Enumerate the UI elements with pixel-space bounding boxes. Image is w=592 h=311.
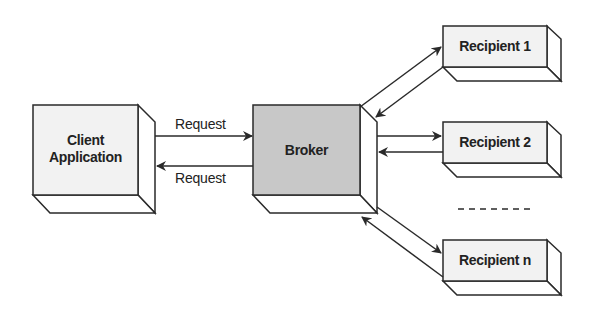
request-label-bottom: Request	[175, 170, 226, 186]
client-label-line2: Application	[33, 149, 138, 166]
client-label: Client Application	[33, 132, 138, 166]
recipient-n-label: Recipient n	[443, 252, 547, 269]
broker-label: Broker	[253, 142, 360, 159]
recipient-2-label: Recipient 2	[443, 134, 547, 151]
arrow-recipient-1-to-broker	[376, 67, 443, 117]
request-label-top: Request	[175, 116, 226, 132]
broker-box	[253, 105, 377, 213]
client-label-line1: Client	[33, 132, 138, 149]
recipient-1-label: Recipient 1	[443, 38, 547, 55]
arrow-broker-to-recipient-n	[377, 207, 441, 253]
